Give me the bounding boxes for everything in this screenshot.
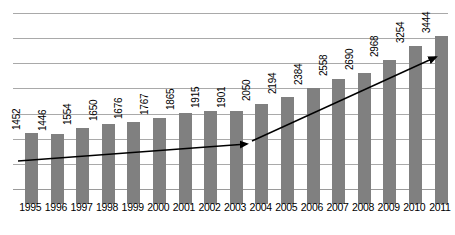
- bar: [409, 46, 422, 204]
- x-axis-tick-label: 2008: [350, 200, 376, 214]
- bar: [204, 111, 217, 204]
- plot-area: 1452144615541650167617671865191519012050…: [13, 13, 448, 197]
- bar-value-label: 1767: [140, 94, 150, 115]
- bar: [51, 134, 64, 204]
- bar: [383, 60, 396, 204]
- x-axis-tick-label: 2000: [146, 200, 172, 214]
- bar-value-label: 1915: [191, 87, 201, 108]
- x-axis-tick-label: 1998: [94, 200, 120, 214]
- x-axis-tick-label: 2003: [222, 200, 248, 214]
- bar-value-label: 2384: [294, 64, 304, 85]
- bar: [281, 97, 294, 204]
- x-axis-labels: 1995199619971998199920002001200220032004…: [13, 200, 448, 220]
- bar: [25, 133, 38, 204]
- bar-value-label: 2050: [242, 80, 252, 101]
- bar-series: 1452144615541650167617671865191519012050…: [13, 13, 448, 197]
- bar-value-label: 1446: [38, 110, 48, 131]
- bar-value-label: 2968: [370, 36, 380, 57]
- x-axis-tick-label: 1999: [120, 200, 146, 214]
- x-axis-tick-label: 1997: [69, 200, 95, 214]
- bar: [435, 36, 448, 204]
- bar-value-label: 1650: [89, 100, 99, 121]
- bar-value-label: 1901: [217, 87, 227, 108]
- bar: [179, 113, 192, 204]
- bar: [332, 79, 345, 204]
- bar-chart: 1452144615541650167617671865191519012050…: [0, 0, 455, 235]
- bar: [230, 111, 243, 204]
- bar-value-label: 3444: [422, 12, 432, 33]
- x-axis-tick-label: 2006: [299, 200, 325, 214]
- x-axis-tick-label: 2004: [248, 200, 274, 214]
- bar-value-label: 1452: [12, 109, 22, 130]
- bar-value-label: 1676: [114, 98, 124, 119]
- bar-value-label: 2690: [345, 49, 355, 70]
- bar: [102, 124, 115, 204]
- bar: [358, 73, 371, 204]
- x-axis-tick-label: 1996: [43, 200, 69, 214]
- x-axis-tick-label: 1995: [18, 200, 44, 214]
- x-axis-tick-label: 2002: [197, 200, 223, 214]
- x-axis-tick-label: 2005: [274, 200, 300, 214]
- bar-value-label: 2558: [319, 55, 329, 76]
- bar: [255, 104, 268, 204]
- x-axis-tick-label: 2007: [325, 200, 351, 214]
- bar: [76, 128, 89, 204]
- bar: [153, 118, 166, 204]
- bar-value-label: 2194: [268, 73, 278, 94]
- bar: [127, 122, 140, 204]
- bar: [307, 88, 320, 204]
- x-axis-tick-label: 2010: [402, 200, 428, 214]
- bar-value-label: 1865: [166, 89, 176, 110]
- bar-value-label: 3254: [396, 22, 406, 43]
- x-axis-tick-label: 2009: [376, 200, 402, 214]
- x-axis-tick-label: 2001: [171, 200, 197, 214]
- x-axis-tick-label: 2011: [427, 200, 453, 214]
- bar-value-label: 1554: [63, 104, 73, 125]
